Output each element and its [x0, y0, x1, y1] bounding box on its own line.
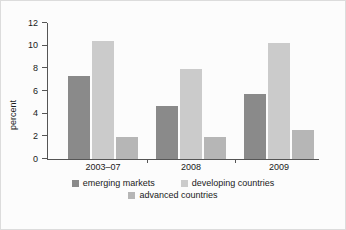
- bar: [68, 76, 90, 159]
- chart-figure: percent 024681012 2003–0720082009 emergi…: [0, 0, 346, 230]
- y-tick: 6: [42, 90, 47, 91]
- y-tick-label: 0: [33, 154, 38, 163]
- y-tick-label: 4: [33, 109, 38, 118]
- legend-row: emerging marketsdeveloping countries: [1, 179, 345, 188]
- bar: [116, 137, 138, 159]
- x-tick-label: 2009: [242, 163, 316, 172]
- y-tick: 2: [42, 135, 47, 136]
- bar: [92, 41, 114, 159]
- bar: [244, 94, 266, 159]
- y-tick: 12: [42, 22, 47, 23]
- legend-label: emerging markets: [83, 179, 155, 188]
- bar: [268, 43, 290, 159]
- legend-swatch-icon: [181, 180, 188, 187]
- bar: [204, 137, 226, 159]
- y-tick: 4: [42, 113, 47, 114]
- y-tick-label: 12: [28, 18, 38, 27]
- x-tick-label: 2008: [154, 163, 228, 172]
- legend-label: advanced countries: [139, 191, 217, 200]
- legend-item[interactable]: advanced countries: [128, 191, 217, 200]
- y-axis-line: [47, 23, 48, 159]
- y-tick-label: 8: [33, 63, 38, 72]
- plot-area: 024681012 2003–0720082009: [47, 23, 319, 159]
- y-tick-label: 2: [33, 131, 38, 140]
- bar-group: [66, 23, 140, 159]
- legend-row: advanced countries: [1, 191, 345, 200]
- x-tick: [235, 159, 236, 163]
- bar: [292, 130, 314, 159]
- y-tick-label: 6: [33, 86, 38, 95]
- bar-group: [154, 23, 228, 159]
- bar: [180, 69, 202, 159]
- y-tick-label: 10: [28, 41, 38, 50]
- bar-group: [242, 23, 316, 159]
- chart-legend: emerging marketsdeveloping countriesadva…: [1, 179, 345, 203]
- y-axis-title: percent: [9, 100, 18, 130]
- y-tick: 10: [42, 45, 47, 46]
- legend-item[interactable]: developing countries: [181, 179, 275, 188]
- legend-item[interactable]: emerging markets: [72, 179, 155, 188]
- y-tick: 0: [42, 158, 47, 159]
- legend-swatch-icon: [128, 192, 135, 199]
- bar: [156, 106, 178, 159]
- y-tick: 8: [42, 67, 47, 68]
- legend-swatch-icon: [72, 180, 79, 187]
- legend-label: developing countries: [192, 179, 275, 188]
- x-axis-line: [47, 159, 319, 160]
- x-tick-label: 2003–07: [66, 163, 140, 172]
- x-tick: [147, 159, 148, 163]
